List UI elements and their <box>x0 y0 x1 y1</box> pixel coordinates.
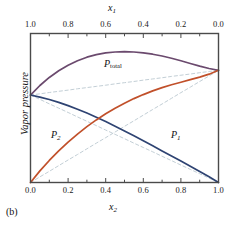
bottom-tick-0-6: 0.6 <box>131 185 155 195</box>
bottom-axis-title: x2 <box>109 201 117 214</box>
top-tick-0-0: 0.0 <box>207 19 231 29</box>
top-tick-0-4: 0.4 <box>131 19 155 29</box>
vapor-pressure-figure: 1.00.80.60.40.20.0 0.00.20.40.60.81.0 x1… <box>0 0 234 227</box>
figure-caption: (b) <box>6 206 18 217</box>
top-axis-title: x1 <box>108 2 116 15</box>
curve-label-p2: P2 <box>51 129 61 142</box>
top-tick-1-0: 1.0 <box>19 19 43 29</box>
curve-label-p2-sub: 2 <box>57 134 61 142</box>
bottom-axis-title-sub: 2 <box>113 206 117 214</box>
top-tick-0-8: 0.8 <box>56 19 80 29</box>
curve-label-p-total: Ptotal <box>104 58 122 69</box>
y-axis-title: Vapor pressure <box>19 34 30 174</box>
top-tick-0-6: 0.6 <box>94 19 118 29</box>
top-tick-0-2: 0.2 <box>169 19 193 29</box>
top-axis-title-sub: 1 <box>112 7 116 15</box>
bottom-tick-1-0: 1.0 <box>207 185 231 195</box>
bottom-tick-0-4: 0.4 <box>94 185 118 195</box>
bottom-tick-0-2: 0.2 <box>56 185 80 195</box>
curve-label-p1: P1 <box>171 129 181 142</box>
bottom-tick-0-0: 0.0 <box>19 185 43 195</box>
curve-label-p-total-sub: total <box>110 62 122 69</box>
curve-label-p1-sub: 1 <box>177 134 181 142</box>
bottom-tick-0-8: 0.8 <box>169 185 193 195</box>
